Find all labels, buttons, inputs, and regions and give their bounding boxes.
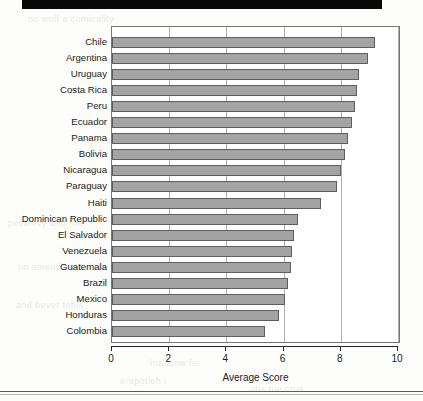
x-axis-line [111, 346, 397, 347]
bar-row [112, 212, 401, 228]
y-label-dominican-republic: Dominican Republic [0, 213, 107, 224]
y-label-chile: Chile [0, 36, 107, 47]
bar-ecuador [112, 117, 352, 128]
bottom-rule-secondary [0, 394, 423, 395]
bar-row [112, 228, 401, 244]
bar-chile [112, 37, 375, 48]
bar-series [112, 27, 399, 342]
x-tick-8 [340, 346, 341, 351]
bar-peru [112, 101, 355, 112]
x-tick-6 [283, 346, 284, 351]
y-label-costa-rica: Costa Rica [0, 84, 107, 95]
bar-chart: ChileArgentinaUruguayCosta RicaPeruEcuad… [0, 0, 423, 391]
y-label-ecuador: Ecuador [0, 116, 107, 127]
bar-dominican-republic [112, 214, 298, 225]
bar-row [112, 179, 401, 195]
y-label-bolivia: Bolivia [0, 148, 107, 159]
y-label-el-salvador: El Salvador [0, 229, 107, 240]
bar-row [112, 244, 401, 260]
x-tick-10 [397, 346, 398, 351]
y-label-haiti: Haiti [0, 197, 107, 208]
y-label-honduras: Honduras [0, 309, 107, 320]
bottom-rule [0, 391, 423, 392]
x-tick-0 [111, 346, 112, 351]
y-label-argentina: Argentina [0, 52, 107, 63]
bar-brazil [112, 278, 288, 289]
bar-row [112, 67, 401, 83]
bar-colombia [112, 326, 265, 337]
x-axis-title: Average Score [111, 372, 400, 383]
y-label-mexico: Mexico [0, 293, 107, 304]
bar-row [112, 292, 401, 308]
x-tick-label-0: 0 [108, 353, 114, 364]
y-label-venezuela: Venezuela [0, 245, 107, 256]
y-axis-category-labels: ChileArgentinaUruguayCosta RicaPeruEcuad… [0, 26, 107, 343]
x-tick-label-4: 4 [223, 353, 229, 364]
y-label-brazil: Brazil [0, 277, 107, 288]
bar-row [112, 308, 401, 324]
bar-row [112, 131, 401, 147]
bar-honduras [112, 310, 279, 321]
x-tick-label-10: 10 [391, 353, 402, 364]
bar-row [112, 163, 401, 179]
y-label-paraguay: Paraguay [0, 180, 107, 191]
y-label-colombia: Colombia [0, 325, 107, 336]
bar-row [112, 51, 401, 67]
bar-row [112, 324, 401, 340]
bar-costa-rica [112, 85, 357, 96]
bar-row [112, 196, 401, 212]
y-label-uruguay: Uruguay [0, 68, 107, 79]
plot-area [111, 26, 400, 343]
bar-bolivia [112, 149, 345, 160]
y-label-guatemala: Guatemala [0, 261, 107, 272]
bar-uruguay [112, 69, 359, 80]
bar-row [112, 115, 401, 131]
bar-nicaragua [112, 165, 341, 176]
bar-el-salvador [112, 230, 294, 241]
y-label-panama: Panama [0, 132, 107, 143]
x-tick-4 [225, 346, 226, 351]
bar-row [112, 99, 401, 115]
x-tick-label-6: 6 [280, 353, 286, 364]
bar-guatemala [112, 262, 291, 273]
y-label-nicaragua: Nicaragua [0, 164, 107, 175]
bar-mexico [112, 294, 285, 305]
bar-venezuela [112, 246, 292, 257]
bar-argentina [112, 53, 368, 64]
bar-row [112, 147, 401, 163]
bar-row [112, 276, 401, 292]
bar-row [112, 35, 401, 51]
bar-paraguay [112, 181, 337, 192]
bar-row [112, 260, 401, 276]
y-label-peru: Peru [0, 100, 107, 111]
bar-panama [112, 133, 348, 144]
bar-haiti [112, 198, 321, 209]
bar-row [112, 83, 401, 99]
x-tick-label-8: 8 [337, 353, 343, 364]
x-tick-label-2: 2 [165, 353, 171, 364]
x-tick-2 [168, 346, 169, 351]
